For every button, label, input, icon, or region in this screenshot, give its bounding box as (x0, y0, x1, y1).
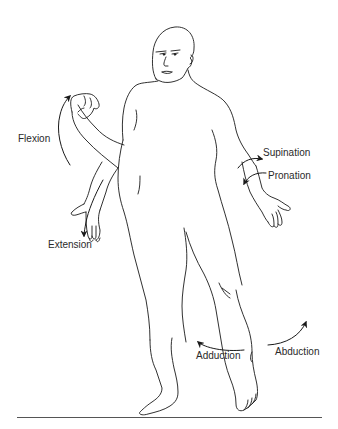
label-pronation: Pronation (268, 171, 311, 181)
legs (139, 228, 257, 415)
label-adduction: Adduction (196, 351, 240, 361)
pronation-arrow (244, 173, 266, 184)
label-abduction: Abduction (275, 347, 319, 357)
label-supination: Supination (263, 148, 310, 158)
human-figure-drawing (0, 0, 338, 429)
supination-arrow (238, 158, 262, 168)
abduction-arrow (268, 322, 306, 345)
horizontal-rule (17, 417, 322, 418)
flexed-arm (71, 94, 124, 168)
flexion-arrow (58, 96, 70, 165)
extended-arm (71, 162, 118, 242)
label-extension: Extension (48, 240, 92, 250)
label-flexion: Flexion (18, 134, 50, 144)
head (152, 27, 194, 83)
anatomy-figure: Flexion Extension Supination Pronation A… (0, 0, 338, 429)
torso (118, 70, 256, 340)
